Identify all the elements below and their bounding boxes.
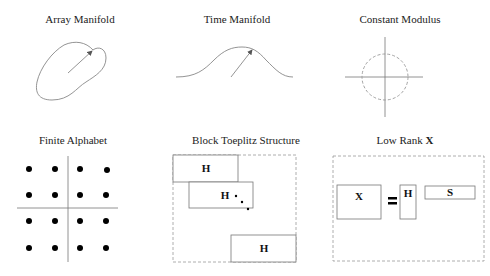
h-block-3-label: H: [260, 242, 269, 254]
equals-bar-top: [388, 197, 397, 200]
constant-modulus-figure: [345, 37, 423, 117]
ellipsis-dot: [241, 201, 243, 203]
time-manifold-arrow: [231, 50, 252, 77]
ellipsis-dot: [235, 195, 237, 197]
ellipsis-dot: [247, 208, 249, 210]
h-block-1-label: H: [202, 162, 211, 174]
s-matrix-label: S: [447, 186, 453, 198]
diagram-canvas: H H H X H S: [0, 0, 490, 276]
block-toeplitz-figure: H H H: [173, 155, 296, 262]
low-rank-figure: X H S: [333, 156, 484, 261]
manifold-blob: [36, 42, 106, 100]
equals-bar-bottom: [388, 202, 397, 205]
time-manifold-figure: [176, 47, 293, 77]
finite-alphabet-figure: [17, 156, 118, 262]
x-matrix-label: X: [355, 190, 363, 202]
h-block-2-label: H: [221, 189, 230, 201]
manifold-arrow: [68, 51, 92, 73]
h-matrix-label: H: [404, 187, 413, 199]
array-manifold-figure: [36, 42, 106, 100]
